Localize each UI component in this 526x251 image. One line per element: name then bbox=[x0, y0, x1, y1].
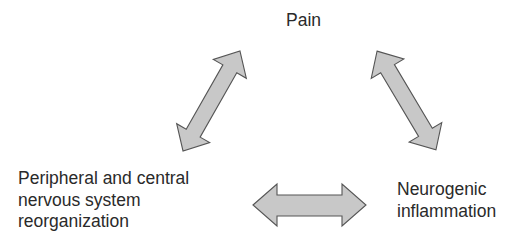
node-neurogenic-line: Neurogenic bbox=[397, 179, 496, 201]
node-neurogenic: Neurogenic inflammation bbox=[397, 179, 496, 222]
arrow-pain-reorganization bbox=[167, 42, 257, 161]
node-pain-line: Pain bbox=[286, 10, 321, 32]
arrow-pain-neurogenic bbox=[361, 41, 453, 159]
node-reorganization-line: nervous system bbox=[18, 190, 189, 212]
node-pain: Pain bbox=[286, 10, 321, 32]
node-reorganization: Peripheral and central nervous system re… bbox=[18, 168, 189, 233]
node-reorganization-line: reorganization bbox=[18, 211, 189, 233]
node-reorganization-line: Peripheral and central bbox=[18, 168, 189, 190]
arrow-reorganization-neurogenic bbox=[253, 184, 366, 226]
node-neurogenic-line: inflammation bbox=[397, 201, 496, 223]
